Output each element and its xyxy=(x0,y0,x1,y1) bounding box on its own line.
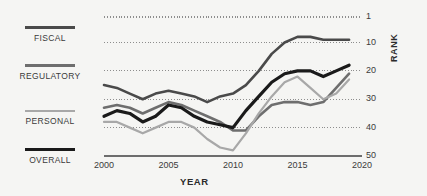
legend-line-swatch-fiscal xyxy=(25,26,75,29)
legend-label-regulatory: REGULATORY xyxy=(0,71,100,81)
y-axis-tick-40: 40 xyxy=(366,122,376,132)
y-axis-tick-10: 10 xyxy=(366,37,376,47)
rank-year-line-chart: FISCAL REGULATORY PERSONAL OVERALL 1 10 … xyxy=(0,0,427,196)
y-axis-tick-50: 50 xyxy=(366,150,376,160)
y-axis-tick-30: 30 xyxy=(366,93,376,103)
x-axis-tick-2000: 2000 xyxy=(84,160,124,170)
legend-item-fiscal[interactable]: FISCAL xyxy=(0,26,100,43)
x-axis-tick-2005: 2005 xyxy=(149,160,189,170)
x-axis-tick-2020: 2020 xyxy=(342,160,382,170)
legend-item-regulatory[interactable]: REGULATORY xyxy=(0,64,100,81)
legend-line-swatch-regulatory xyxy=(25,64,75,67)
x-axis-tick-2010: 2010 xyxy=(213,160,253,170)
y-axis-tick-20: 20 xyxy=(366,65,376,75)
legend-label-personal: PERSONAL xyxy=(0,116,100,126)
x-axis-title: YEAR xyxy=(180,176,209,187)
legend-line-swatch-personal xyxy=(25,110,75,112)
x-axis-tick-2015: 2015 xyxy=(278,160,318,170)
legend-item-personal[interactable]: PERSONAL xyxy=(0,110,100,126)
y-axis-tick-1: 1 xyxy=(366,11,371,21)
legend-line-swatch-overall xyxy=(25,148,75,151)
legend-label-fiscal: FISCAL xyxy=(0,33,100,43)
y-axis-title: RANK xyxy=(389,34,399,62)
